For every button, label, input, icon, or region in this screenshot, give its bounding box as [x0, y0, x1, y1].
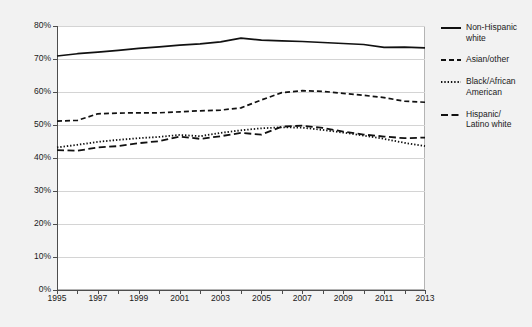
- legend-label: Black/African American: [466, 76, 516, 97]
- plot-wrapper: [57, 26, 425, 290]
- x-axis-label: 2009: [334, 294, 353, 303]
- x-axis-label: 2001: [170, 294, 189, 303]
- legend-swatch-dotted-icon: [441, 77, 461, 87]
- series-line-1: [57, 91, 425, 121]
- legend-item: Asian/other: [441, 54, 529, 65]
- legend-swatch-solid-icon: [441, 23, 461, 33]
- y-axis-label: 80%: [34, 21, 51, 30]
- legend-item: Black/African American: [441, 76, 529, 97]
- legend-label: Non-Hispanic white: [466, 22, 517, 43]
- y-axis-label: 60%: [34, 87, 51, 96]
- x-axis-label: 2011: [375, 294, 393, 303]
- legend-swatch-dashdot-icon: [441, 110, 461, 120]
- plot-svg: [57, 26, 425, 290]
- x-axis-label: 2013: [416, 294, 435, 303]
- legend-label: Hispanic/ Latino white: [466, 109, 511, 130]
- series-line-2: [57, 127, 425, 147]
- y-axis-label: 40%: [34, 153, 51, 162]
- y-axis-label: 30%: [34, 186, 51, 195]
- x-axis-label: 1999: [129, 294, 148, 303]
- x-axis-label: 2007: [293, 294, 312, 303]
- chart-figure: 0%10%20%30%40%50%60%70%80% 1995199719992…: [0, 0, 532, 327]
- x-axis-tick-labels: 1995199719992001200320052007200920112013: [57, 294, 425, 310]
- legend-label: Asian/other: [466, 54, 509, 65]
- y-axis-label: 20%: [34, 219, 51, 228]
- series-line-0: [57, 38, 425, 56]
- x-axis-label: 2003: [211, 294, 230, 303]
- legend-swatch-dashed-icon: [441, 55, 461, 65]
- y-axis-tick-labels: 0%10%20%30%40%50%60%70%80%: [0, 26, 51, 290]
- x-axis-label: 2005: [252, 294, 271, 303]
- y-axis-label: 70%: [34, 54, 51, 63]
- y-axis-label: 10%: [34, 252, 51, 261]
- x-axis-label: 1995: [48, 294, 67, 303]
- x-axis-label: 1997: [88, 294, 107, 303]
- chart-legend: Non-Hispanic whiteAsian/otherBlack/Afric…: [441, 22, 529, 141]
- y-axis-label: 50%: [34, 120, 51, 129]
- legend-item: Hispanic/ Latino white: [441, 109, 529, 130]
- legend-item: Non-Hispanic white: [441, 22, 529, 43]
